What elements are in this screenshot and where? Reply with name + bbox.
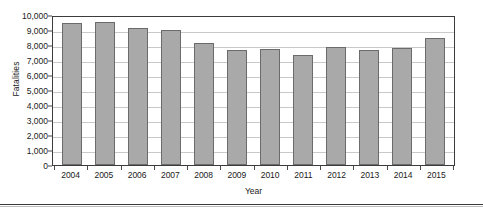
- bar-slot: [55, 17, 88, 165]
- bar-2013: [359, 50, 379, 166]
- y-tick-label: 7,000: [0, 57, 48, 65]
- x-tick-label: 2007: [154, 170, 187, 180]
- bar-2006: [128, 28, 148, 165]
- y-tick-label: 0: [0, 162, 48, 170]
- bar-2010: [260, 49, 280, 165]
- y-tick-label: 8,000: [0, 42, 48, 50]
- bar-slot: [187, 17, 220, 165]
- bar-2004: [62, 23, 82, 166]
- x-tick-label: 2006: [121, 170, 154, 180]
- x-tick-label: 2005: [87, 170, 120, 180]
- bar-2009: [227, 50, 247, 165]
- y-tick-label: 5,000: [0, 87, 48, 95]
- footer-rule-dark: [0, 204, 483, 205]
- bar-2012: [326, 47, 346, 166]
- bar-2014: [392, 48, 412, 165]
- x-tick-label: 2008: [187, 170, 220, 180]
- x-tick-label: 2004: [54, 170, 87, 180]
- bar-slot: [320, 17, 353, 165]
- bar-slot: [154, 17, 187, 165]
- y-tick-label: 2,000: [0, 132, 48, 140]
- y-tick-label: 4,000: [0, 102, 48, 110]
- bar-slot: [220, 17, 253, 165]
- bar-slot: [253, 17, 286, 165]
- bar-series: [53, 17, 454, 165]
- y-tick-label: 6,000: [0, 72, 48, 80]
- bar-slot: [353, 17, 386, 165]
- x-tick-label: 2012: [320, 170, 353, 180]
- y-tick-label: 10,000: [0, 12, 48, 20]
- bar-2007: [161, 30, 181, 165]
- bar-2005: [95, 22, 115, 165]
- x-tick-label: 2009: [220, 170, 253, 180]
- bar-2015: [425, 38, 445, 166]
- bar-slot: [419, 17, 452, 165]
- x-axis-title: Year: [52, 186, 455, 196]
- plot-area: [52, 16, 455, 166]
- x-axis-tick-labels: 2004200520062007200820092010201120122013…: [52, 170, 455, 180]
- bar-slot: [121, 17, 154, 165]
- y-axis-tick-labels: 01,0002,0003,0004,0005,0006,0007,0008,00…: [0, 16, 48, 166]
- x-tick-label: 2010: [254, 170, 287, 180]
- x-tick-label: 2011: [287, 170, 320, 180]
- x-tick-label: 2014: [387, 170, 420, 180]
- y-tick-label: 3,000: [0, 117, 48, 125]
- bar-2008: [194, 43, 214, 165]
- bar-slot: [88, 17, 121, 165]
- x-tick-label: 2015: [420, 170, 453, 180]
- y-tick-label: 9,000: [0, 27, 48, 35]
- y-tick-label: 1,000: [0, 147, 48, 155]
- bar-2011: [293, 55, 313, 165]
- bar-chart-figure: Fatalities 01,0002,0003,0004,0005,0006,0…: [0, 0, 483, 212]
- x-tick-label: 2013: [353, 170, 386, 180]
- bar-slot: [287, 17, 320, 165]
- bar-slot: [386, 17, 419, 165]
- footer-rule-light: [0, 206, 483, 207]
